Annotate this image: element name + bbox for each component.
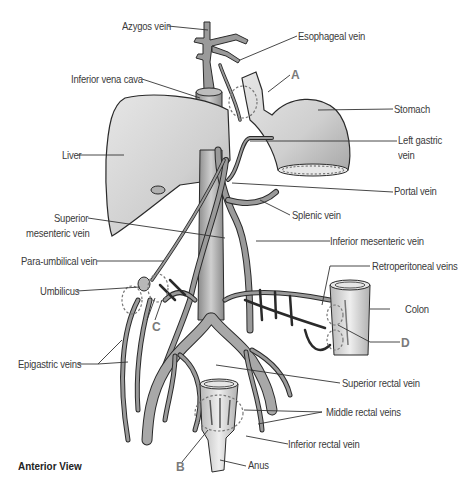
site-label-c: C bbox=[152, 320, 161, 334]
label-azygos-vein: Azygos vein bbox=[122, 20, 171, 32]
label-inferior-vena-cava: Inferior vena cava bbox=[71, 73, 143, 85]
label-para-umbilical-vein: Para-umbilical vein bbox=[21, 255, 97, 267]
label-retroperitoneal-veins: Retroperitoneal veins bbox=[372, 260, 458, 272]
label-splenic-vein: Splenic vein bbox=[292, 209, 341, 221]
colon-shape bbox=[330, 280, 370, 355]
label-inferior-mesenteric-vein: Inferior mesenteric vein bbox=[330, 235, 424, 247]
label-epigastric-veins: Epigastric veins bbox=[18, 358, 81, 370]
label-liver: Liver bbox=[62, 149, 82, 161]
label-superior-mesenteric-vein-line2: mesenteric vein bbox=[26, 227, 89, 239]
label-left-gastric-vein-line2: vein bbox=[398, 149, 415, 161]
stomach-shape bbox=[242, 72, 350, 176]
label-superior-rectal-vein: Superior rectal vein bbox=[342, 377, 420, 389]
label-anus: Anus bbox=[248, 459, 269, 471]
label-superior-mesenteric-vein-line1: Superior bbox=[54, 212, 88, 224]
site-label-a: A bbox=[291, 68, 300, 82]
label-stomach: Stomach bbox=[394, 103, 430, 115]
label-esophageal-vein: Esophageal vein bbox=[298, 30, 365, 42]
site-label-b: B bbox=[176, 460, 185, 474]
label-inferior-rectal-vein: Inferior rectal vein bbox=[288, 438, 360, 450]
rectum-shape bbox=[200, 379, 238, 472]
label-left-gastric-vein-line1: Left gastric bbox=[398, 134, 442, 146]
label-colon: Colon bbox=[405, 303, 429, 315]
label-middle-rectal-veins: Middle rectal veins bbox=[326, 406, 401, 418]
azygos-vein-shape bbox=[194, 22, 248, 90]
site-c-circle-right bbox=[148, 274, 168, 302]
view-caption: Anterior View bbox=[18, 460, 82, 472]
site-label-d: D bbox=[401, 336, 410, 350]
label-umbilicus: Umbilicus bbox=[40, 285, 79, 297]
label-portal-vein: Portal vein bbox=[394, 185, 437, 197]
